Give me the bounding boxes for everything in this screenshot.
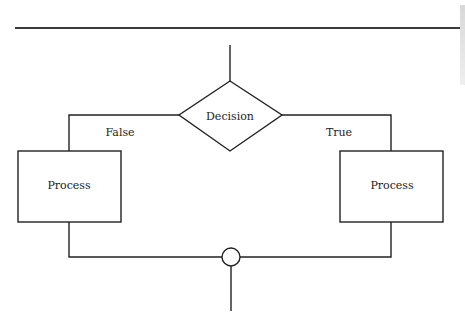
process-true-label: Process — [370, 179, 413, 192]
true-branch-label: True — [326, 126, 352, 139]
merge-circle — [222, 248, 240, 266]
true-merge-connector — [240, 222, 391, 257]
process-false-label: Process — [47, 179, 90, 192]
decision-label: Decision — [206, 110, 254, 123]
false-merge-connector — [69, 222, 222, 257]
false-branch-label: False — [105, 126, 134, 139]
flowchart-canvas — [0, 0, 465, 331]
